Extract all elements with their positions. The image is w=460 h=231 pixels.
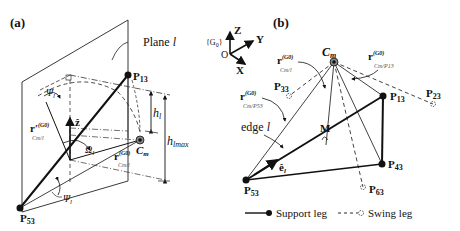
- p53-b-label: P53: [244, 184, 259, 198]
- psi-top-label: Ψl: [46, 87, 55, 100]
- panel-a-label: (a): [10, 15, 25, 30]
- r-cmp53-sub: Cm/P53: [243, 103, 263, 109]
- r-prime-label: r′(G0): [30, 122, 49, 134]
- x-axis-arrow: [230, 54, 245, 64]
- point-p53-b: [243, 177, 250, 184]
- e-hat-arrow: [254, 160, 277, 175]
- e-hat-label: êl: [279, 161, 286, 175]
- swing-leg-marker: [359, 211, 364, 216]
- plane-leader: [112, 42, 128, 60]
- m-label: M: [320, 122, 331, 134]
- r-vec-sub: Cm/l: [118, 162, 130, 168]
- point-p13-a: [125, 72, 132, 79]
- panel-b: (b) êl Cm P13 P43 P53 P33 P23: [240, 15, 441, 219]
- p23-label: P23: [426, 87, 441, 101]
- r-prime-vector: [46, 102, 70, 160]
- x-axis-label: X: [236, 64, 244, 76]
- frame-name: {G0}: [206, 38, 223, 48]
- legend-support: Support leg: [276, 207, 328, 219]
- p43-label: P43: [388, 158, 403, 172]
- r-cmp13-label: r(G0): [368, 50, 384, 62]
- y-axis-label: Y: [256, 33, 264, 45]
- r-cml-label: r(G0): [277, 54, 293, 66]
- r-cmp53-label: r(G0): [240, 90, 256, 102]
- p13-a-label: P13: [133, 70, 148, 84]
- support-leg-marker: [266, 210, 272, 216]
- cm-a-label: Cm: [136, 144, 149, 158]
- figure-canvas: (a) Plane l hl hlmax ẑ: [0, 0, 460, 231]
- panel-b-label: (b): [273, 15, 289, 30]
- psi-bottom-label: Ψl: [63, 193, 72, 206]
- z-hat-label: ẑ: [75, 116, 80, 128]
- h-lmax-label: hlmax: [167, 134, 189, 149]
- y-axis-arrow: [230, 41, 253, 54]
- frame-g0: Z Y X O {G0}: [206, 24, 264, 76]
- p63-label: P63: [369, 183, 384, 197]
- h-l-label: hl: [153, 106, 162, 121]
- p53-a-label: P53: [20, 212, 35, 226]
- legend-swing: Swing leg: [368, 207, 413, 219]
- point-p13-b: [380, 93, 387, 100]
- panel-a: (a) Plane l hl hlmax ẑ: [10, 15, 189, 226]
- p33-label: P33: [274, 80, 289, 94]
- r-cmp13-sub: Cm/P13: [374, 63, 394, 69]
- legend: Support leg Swing leg: [245, 207, 413, 219]
- p13-b-label: P13: [390, 90, 405, 104]
- edge-l: [20, 75, 128, 208]
- plane-label: Plane l: [143, 35, 177, 49]
- edge-l-label: edge l: [241, 120, 271, 134]
- point-p43: [379, 161, 386, 168]
- r-cml-sub: Cm/l: [280, 67, 292, 73]
- r-prime-sub: Cm/l: [32, 135, 44, 141]
- point-p53-a: [17, 205, 24, 212]
- z-axis-label: Z: [234, 24, 241, 36]
- cm-b-label: Cm: [322, 45, 336, 60]
- origin-label: O: [221, 49, 228, 60]
